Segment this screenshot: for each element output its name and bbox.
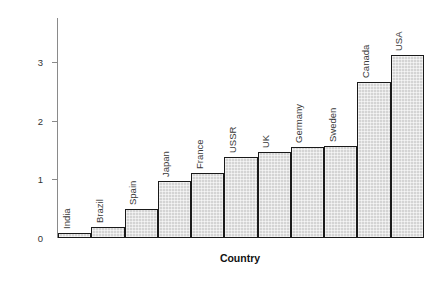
bar-category-label: Spain	[127, 181, 138, 205]
bar-category-label: Sweden	[327, 108, 338, 142]
bar-slot: France	[191, 18, 224, 238]
bar[interactable]: USSR	[224, 157, 257, 238]
bar-slot: Spain	[125, 18, 158, 238]
bar[interactable]: UK	[258, 152, 291, 238]
bar-slot: USA	[391, 18, 424, 238]
bar[interactable]: France	[191, 173, 224, 238]
x-axis-title: Country	[57, 252, 423, 264]
y-axis-tick-label: 1	[38, 174, 43, 185]
y-axis-tick-label: 3	[38, 57, 43, 68]
bar-category-label: Canada	[360, 45, 371, 78]
bar-chart: Energy consumption per person/× 1011 J 1…	[0, 0, 435, 285]
bar-slot: Sweden	[324, 18, 357, 238]
bar-slot: India	[58, 18, 91, 238]
bar-series: IndiaBrazilSpainJapanFranceUSSRUKGermany…	[58, 18, 424, 238]
bar-slot: Canada	[357, 18, 390, 238]
bar-slot: UK	[258, 18, 291, 238]
bar[interactable]: Canada	[357, 82, 390, 238]
bar-slot: USSR	[224, 18, 257, 238]
bar-category-label: USA	[393, 31, 404, 51]
y-axis-zero-tick: 0	[52, 238, 58, 239]
bar-category-label: France	[194, 139, 205, 169]
bar-slot: Japan	[158, 18, 191, 238]
bar[interactable]: Spain	[125, 209, 158, 238]
bar[interactable]: Japan	[158, 181, 191, 238]
bar-category-label: UK	[260, 135, 271, 148]
bar-category-label: Brazil	[94, 199, 105, 223]
bar[interactable]: Sweden	[324, 146, 357, 238]
bar-slot: Germany	[291, 18, 324, 238]
bar-category-label: India	[61, 209, 72, 230]
bar-category-label: Japan	[160, 151, 171, 177]
y-axis-tick-label: 2	[38, 115, 43, 126]
plot-area: 1230 IndiaBrazilSpainJapanFranceUSSRUKGe…	[57, 18, 423, 238]
bar-category-label: USSR	[227, 127, 238, 153]
bar-slot: Brazil	[91, 18, 124, 238]
bar[interactable]: India	[58, 233, 91, 238]
y-axis-zero-label: 0	[38, 233, 43, 244]
bar[interactable]: Brazil	[91, 227, 124, 238]
bar[interactable]: USA	[391, 55, 424, 238]
bar-category-label: Germany	[293, 104, 304, 143]
bar[interactable]: Germany	[291, 147, 324, 238]
